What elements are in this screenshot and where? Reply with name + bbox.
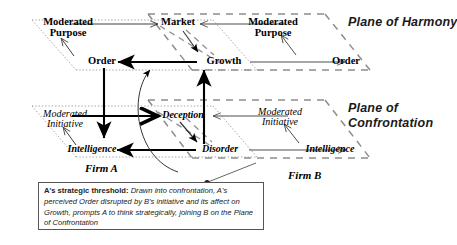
firm-label-a: Firm A [85, 163, 118, 174]
node-label-line1: Intelligence [58, 144, 126, 154]
node-label-line2: Purpose [32, 28, 104, 39]
strategic-threshold-callout: A's strategic threshold: Drawn into conf… [38, 182, 264, 230]
plane-label-confrontation-line2: Confrontation [348, 116, 433, 131]
node-a-moderated-purpose[interactable]: Moderated Purpose [32, 17, 104, 38]
node-b-moderated-initiative[interactable]: Moderated Initiative [243, 107, 317, 127]
node-label-line2: Initiative [28, 119, 102, 129]
node-market[interactable]: Market [152, 17, 204, 28]
node-label-line2: Purpose [237, 28, 309, 39]
node-growth[interactable]: Growth [196, 56, 252, 67]
node-label-line1: Deception [152, 110, 214, 120]
node-label-line1: Market [152, 17, 204, 28]
node-label-line2: Initiative [243, 117, 317, 127]
node-label-line1: Order [76, 56, 128, 67]
firm-b-thin-relations [200, 24, 346, 150]
node-label-line1: Order [320, 56, 372, 67]
node-disorder[interactable]: Disorder [190, 144, 250, 154]
plane-label-confrontation: Plane of Confrontation [348, 101, 433, 131]
plane-label-confrontation-line1: Plane of [348, 101, 433, 116]
callout-lead: A's strategic threshold: [44, 186, 129, 195]
node-label-line1: Growth [196, 56, 252, 67]
plane-label-harmony: Plane of Harmony [348, 15, 457, 30]
firm-label-b: Firm B [288, 170, 321, 181]
cross-plane-dashed-links [158, 26, 220, 148]
market-to-growth-link [183, 31, 198, 52]
node-deception[interactable]: Deception [152, 110, 214, 120]
node-label-line1: Intelligence [296, 144, 364, 154]
node-b-moderated-purpose[interactable]: Moderated Purpose [237, 17, 309, 38]
node-b-intelligence[interactable]: Intelligence [296, 144, 364, 154]
node-b-order[interactable]: Order [320, 56, 372, 67]
node-a-order[interactable]: Order [76, 56, 128, 67]
node-a-intelligence[interactable]: Intelligence [58, 144, 126, 154]
plane-label-harmony-line1: Plane of Harmony [348, 15, 457, 30]
node-a-moderated-initiative[interactable]: Moderated Initiative [28, 109, 102, 129]
deception-to-disorder-link [180, 122, 197, 142]
node-label-line1: Disorder [190, 144, 250, 154]
